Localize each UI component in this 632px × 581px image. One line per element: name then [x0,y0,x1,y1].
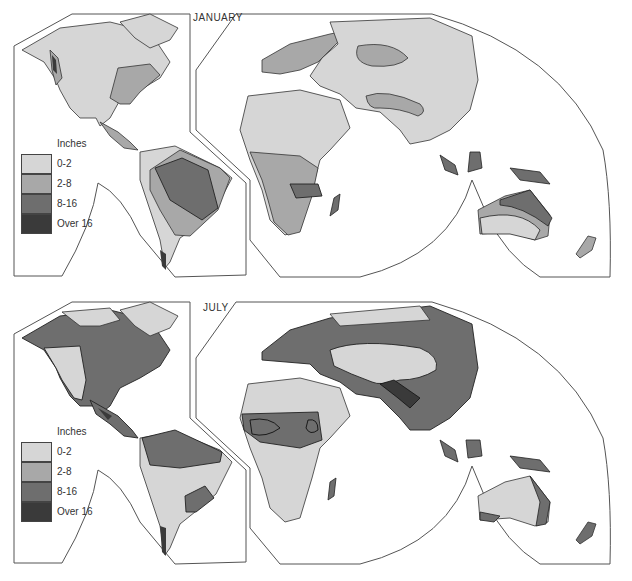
legend-label: Over 16 [57,218,93,229]
legend-item: Over 16 [21,214,131,234]
legend: Inches 0-2 2-8 8-16 Over 16 [21,426,131,518]
legend-item: 2-8 [21,174,131,194]
legend-header: Inches [57,426,86,437]
legend-item: 8-16 [21,194,131,214]
legend-label: 8-16 [57,198,77,209]
legend-header: Inches [57,138,86,149]
legend-item: 2-8 [21,462,131,482]
legend-swatch [21,154,52,174]
legend-swatch [21,462,52,482]
legend-swatch [21,502,52,522]
legend-swatch [21,482,52,502]
legend-swatch [21,214,52,234]
legend-label: 2-8 [57,178,71,189]
legend-item: 0-2 [21,442,131,462]
legend-label: Over 16 [57,506,93,517]
july-map-panel: JULY Inches 0-2 2-8 8-16 Over 16 [0,290,632,580]
legend-item: 0-2 [21,154,131,174]
map-title: JULY [203,302,229,313]
map-title: JANUARY [193,12,243,23]
legend-swatch [21,442,52,462]
legend-label: 0-2 [57,446,71,457]
legend-item: Over 16 [21,502,131,522]
legend-label: 8-16 [57,486,77,497]
legend-item: 8-16 [21,482,131,502]
legend-label: 0-2 [57,158,71,169]
legend-swatch [21,174,52,194]
january-map-panel: JANUARY Inches 0-2 2-8 8-16 Over 16 [0,0,632,290]
legend-swatch [21,194,52,214]
legend: Inches 0-2 2-8 8-16 Over 16 [21,138,131,230]
legend-label: 2-8 [57,466,71,477]
